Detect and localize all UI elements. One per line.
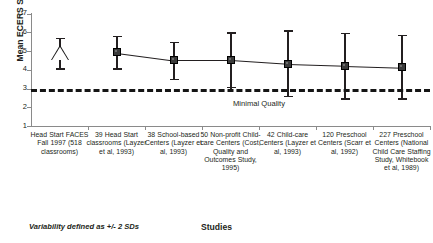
data-point-error-cap [398, 35, 407, 36]
y-tick [27, 32, 31, 33]
data-point-marker-square [341, 62, 349, 70]
y-tick-label: 1 [13, 122, 27, 130]
data-point-marker-square [113, 48, 121, 56]
x-category-label: 120 Preschool Centers (Scarr et al, 1992… [314, 131, 375, 156]
x-tick [145, 126, 146, 130]
data-point-marker-square [227, 56, 235, 64]
series-line-segment [231, 60, 288, 65]
y-tick-label: 3 [13, 84, 27, 92]
ecers-score-chart: Mean ECERS Score 1234567 Minimal Quality… [0, 0, 433, 243]
x-tick [373, 126, 374, 130]
x-category-label: 227 Preschool Centers (National Child Ca… [371, 131, 432, 172]
category-labels: Head Start FACES Fall 1997 (518 classroo… [31, 131, 430, 211]
data-point-error-cap [284, 96, 293, 97]
data-point-error-cap [113, 68, 122, 69]
data-point-error-cap [170, 42, 179, 43]
x-category-label: 42 Child-care Centers (Layzer et al, 199… [257, 131, 318, 156]
data-point-error-cap [56, 68, 65, 69]
y-tick-label: 4 [13, 65, 27, 73]
y-tick-label: 5 [13, 47, 27, 55]
data-point-marker-triangle-fill [52, 47, 68, 60]
x-tick [202, 126, 203, 130]
x-tick [430, 126, 431, 130]
data-point-marker-square [170, 56, 178, 64]
data-point-error-cap [341, 33, 350, 34]
x-tick [316, 126, 317, 130]
x-axis-title: Studies [0, 222, 433, 232]
x-axis-line [31, 126, 430, 127]
y-tick-label: 7 [13, 9, 27, 17]
data-point-marker-square [398, 63, 406, 71]
series-line-segment [288, 64, 345, 67]
x-category-label: 50 Non-profit Child-care Centers (Cost, … [200, 131, 261, 172]
data-point-error-cap [398, 98, 407, 99]
x-tick [259, 126, 260, 130]
series-line-segment [345, 66, 402, 69]
minimal-quality-line [31, 89, 430, 92]
x-tick [88, 126, 89, 130]
data-point-error-cap [284, 30, 293, 31]
minimal-quality-label: Minimal Quality [199, 99, 319, 108]
data-point-error-cap [56, 38, 65, 39]
data-point-error-cap [227, 32, 236, 33]
x-category-label: 38 School-based Centers (Layzer et al, 1… [143, 131, 204, 156]
x-category-label: Head Start FACES Fall 1997 (518 classroo… [29, 131, 90, 156]
series-line-segment [174, 60, 231, 61]
y-tick-label: 6 [13, 28, 27, 36]
y-tick [27, 107, 31, 108]
data-point-error-cap [113, 36, 122, 37]
y-tick [27, 126, 31, 127]
x-category-label: 39 Head Start classrooms (Layzer et al, … [86, 131, 147, 156]
y-tick [27, 51, 31, 52]
y-tick [27, 14, 31, 15]
y-tick-label: 2 [13, 103, 27, 111]
data-point-error-cap [341, 98, 350, 99]
y-tick [27, 70, 31, 71]
series-line-segment [117, 53, 174, 61]
y-axis-line [31, 13, 32, 127]
data-point-marker-square [284, 60, 292, 68]
data-point-error-cap [170, 79, 179, 80]
